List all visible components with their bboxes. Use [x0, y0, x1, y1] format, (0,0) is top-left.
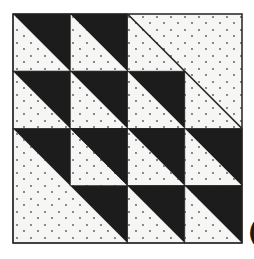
edge-glyph-text: ( — [248, 222, 254, 244]
quilt-block-diagram — [0, 0, 254, 259]
cropped-edge-glyph: ( — [248, 222, 254, 244]
